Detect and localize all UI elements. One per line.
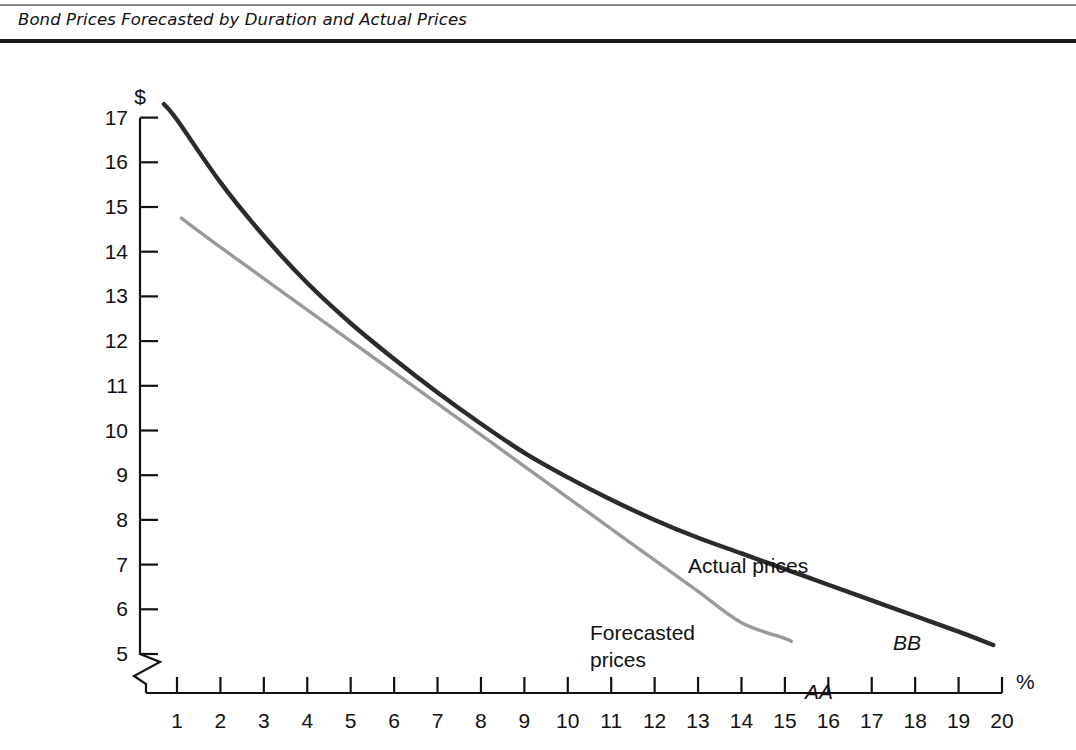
y-tick-label-group: 567891011121314151617 <box>105 106 129 665</box>
y-tick-label: 14 <box>105 240 129 263</box>
x-tick-label: 19 <box>947 709 970 732</box>
y-axis-unit-label: $ <box>134 85 146 108</box>
y-tick-label: 12 <box>105 329 128 352</box>
caption-bar: Bond Prices Forecasted by Duration and A… <box>0 0 1076 46</box>
y-tick-label: 8 <box>116 508 128 531</box>
x-tick-label: 1 <box>171 709 183 732</box>
x-tick-label: 7 <box>432 709 444 732</box>
y-axis-break-icon <box>134 644 160 693</box>
y-tick-label: 6 <box>116 597 128 620</box>
x-tick-label: 3 <box>258 709 270 732</box>
y-tick-label: 11 <box>106 374 128 397</box>
x-tick-label: 17 <box>860 709 883 732</box>
x-tick-label: 11 <box>600 709 622 732</box>
annotation-actual-prices: Actual prices <box>688 554 808 577</box>
chart-plot-area: 567891011121314151617 $ 1234567891011121… <box>0 46 1076 750</box>
x-tick-label: 15 <box>773 709 796 732</box>
y-axis: 567891011121314151617 $ <box>105 85 160 693</box>
series-line-actual-prices <box>164 104 993 645</box>
figure-root: Bond Prices Forecasted by Duration and A… <box>0 0 1076 750</box>
y-tick-label: 5 <box>116 642 128 665</box>
y-tick-label: 9 <box>116 463 128 486</box>
x-tick-label: 14 <box>730 709 754 732</box>
annotation-series-code-bb: BB <box>893 631 921 654</box>
x-tick-label: 12 <box>643 709 666 732</box>
annotation-series-code-aa: AA <box>803 680 833 703</box>
x-tick-label: 10 <box>556 709 579 732</box>
bond-price-line-chart: 567891011121314151617 $ 1234567891011121… <box>0 46 1076 750</box>
caption-rule-top <box>0 4 1076 6</box>
x-tick-label: 9 <box>519 709 531 732</box>
x-tick-label: 16 <box>817 709 840 732</box>
x-axis-unit-label: % <box>1016 670 1035 693</box>
y-tick-marks <box>140 118 158 654</box>
y-tick-label: 13 <box>105 284 128 307</box>
x-tick-label: 18 <box>903 709 926 732</box>
y-tick-label: 15 <box>105 195 128 218</box>
x-tick-label: 6 <box>388 709 400 732</box>
x-tick-label: 2 <box>215 709 227 732</box>
caption-rule-bottom <box>0 39 1076 43</box>
x-tick-label-group: 1234567891011121314151617181920 <box>171 709 1014 732</box>
annotation-forecasted-prices-line1: Forecasted <box>590 621 695 644</box>
annotation-forecasted-prices-line2: prices <box>590 648 646 671</box>
x-axis: 1234567891011121314151617181920 % <box>146 670 1035 732</box>
series-group <box>164 104 993 645</box>
y-tick-label: 10 <box>105 419 128 442</box>
x-tick-label: 8 <box>475 709 487 732</box>
x-tick-label: 20 <box>990 709 1013 732</box>
x-tick-marks <box>177 677 1002 693</box>
y-tick-label: 16 <box>105 150 128 173</box>
y-tick-label: 17 <box>105 106 128 129</box>
x-tick-label: 4 <box>301 709 313 732</box>
x-tick-label: 13 <box>686 709 709 732</box>
y-tick-label: 7 <box>116 553 128 576</box>
page-title: Bond Prices Forecasted by Duration and A… <box>18 10 467 29</box>
x-tick-label: 5 <box>345 709 357 732</box>
